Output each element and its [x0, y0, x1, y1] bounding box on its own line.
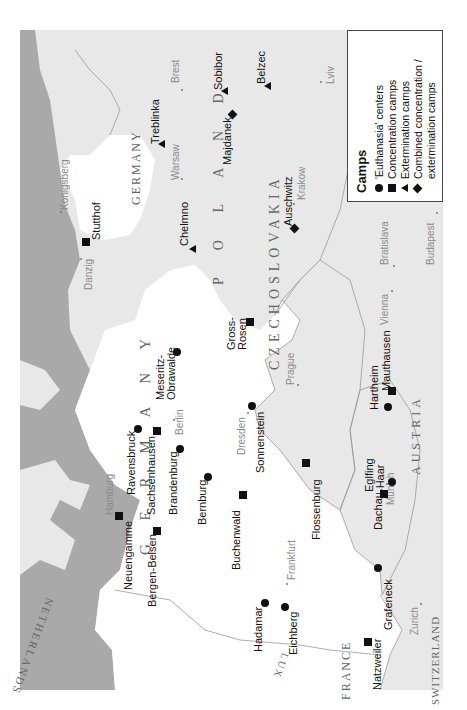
city-label-berlin: Berlin	[175, 409, 185, 435]
camp-label-hartheim: Hartheim	[369, 365, 380, 410]
legend-item-combined: Combined concentration / extermination c…	[412, 39, 438, 193]
city-dot-konigsberg	[60, 211, 62, 213]
camp-label-belzec: Belzec	[256, 51, 267, 84]
city-dot-warsaw	[181, 178, 183, 180]
camp-label-bernburg: Bernburg	[197, 480, 208, 525]
legend-title: Camps	[354, 39, 369, 193]
city-label-krakow: Krakow	[297, 167, 307, 200]
camp-label-chelmno: Chelmno	[179, 202, 190, 246]
city-dot-lviv	[320, 81, 322, 83]
city-label-danzig: Danzig	[84, 259, 94, 290]
camp-label-hadamar: Hadamar	[253, 607, 264, 652]
city-dot-bratislava	[393, 265, 395, 267]
country-label-switzerland: SWITZERLAND	[430, 616, 441, 705]
camp-label-rosen: Rosen	[237, 318, 248, 350]
legend-item-label: Combined concentration / extermination c…	[412, 39, 438, 179]
country-label-poland: P O L A N D	[212, 81, 226, 285]
camp-label-flossenburg: Flossenburg	[311, 479, 322, 540]
camp-label-dachau: Dachau	[373, 492, 384, 530]
country-label-east-prussia: GERMANY	[130, 130, 142, 205]
city-label-brest: Brest	[171, 60, 181, 83]
city-label-frankfurt: Frankfurt	[287, 540, 297, 580]
country-label-czechoslovakia: CZECHOSLOVAKIA	[268, 174, 282, 370]
city-label-hamburg: Hamburg	[105, 474, 115, 515]
camp-label-haar: -Haar	[375, 464, 386, 492]
city-dot-budapest	[436, 212, 438, 214]
east-prussia-border	[75, 50, 120, 135]
camp-label-brandenburg: Brandenburg	[168, 451, 179, 515]
camp-label-eichberg: Eichberg	[288, 612, 299, 655]
city-dot-danzig	[80, 258, 82, 260]
camp-label-auschwitz: Auschwitz	[283, 176, 294, 226]
city-label-vienna: Vienna	[380, 294, 390, 325]
legend-item-label: Extermination camps	[399, 81, 412, 179]
camp-label-natzweiler: Natzweiler	[372, 639, 383, 690]
camp-label-sachsenhausen: Sachsenhausen	[146, 436, 157, 515]
camp-label-sonnenstein: Sonnenstein	[255, 412, 266, 473]
city-label-dresden: Dresden	[237, 417, 247, 455]
country-label-france: FRANCE	[340, 641, 352, 700]
camp-label-obrawalde: Obrawalde	[166, 347, 177, 400]
city-label-prague: Prague	[286, 353, 296, 385]
map-legend: Camps 'Euthanasia' centers Concentration…	[347, 30, 443, 202]
camp-label-ravensbruck: Ravensbruck	[126, 431, 137, 495]
legend-item-extermination: Extermination camps	[399, 39, 412, 193]
camp-label-neuengamme: Neuengamme	[123, 521, 134, 590]
city-dot-vienna	[391, 290, 393, 292]
camp-label-stutthof: Stutthof	[91, 202, 102, 240]
city-label-warsaw: Warsaw	[171, 144, 181, 180]
camp-label-majdanek: Majdanek	[222, 117, 233, 165]
city-dot-zurich	[420, 603, 422, 605]
city-dot-dresden	[247, 412, 249, 414]
city-label-lviv: Lviv	[326, 66, 336, 84]
legend-item-label: 'Euthanasia' centers	[373, 85, 386, 179]
camp-label-mauthausen: Mauthausen	[381, 330, 392, 391]
camp-label-treblinka: Treblinka	[150, 99, 161, 144]
city-label-konigsberg: Konigsberg	[60, 159, 70, 210]
legend-item-euthanasia: 'Euthanasia' centers	[373, 39, 386, 193]
city-dot-frankfurt	[286, 583, 288, 585]
legend-item-label: Concentration camps	[386, 80, 399, 179]
country-label-austria: AUSTRIA	[410, 395, 422, 475]
city-dot-prague	[297, 384, 299, 386]
city-label-budapest: Budapest	[426, 223, 436, 265]
camp-label-sobibor: Sobibor	[213, 52, 224, 90]
camp-label-bergen-belsen: Bergen-Belsen	[147, 534, 158, 607]
camp-label-buchenwald: Buchenwald	[231, 510, 242, 570]
camp-label-grafeneck: Grafeneck	[383, 579, 394, 630]
city-label-zurich: Zurich	[410, 607, 420, 635]
city-dot-brest	[181, 89, 183, 91]
legend-item-concentration: Concentration camps	[386, 39, 399, 193]
city-label-bratislava: Bratislava	[380, 221, 390, 265]
